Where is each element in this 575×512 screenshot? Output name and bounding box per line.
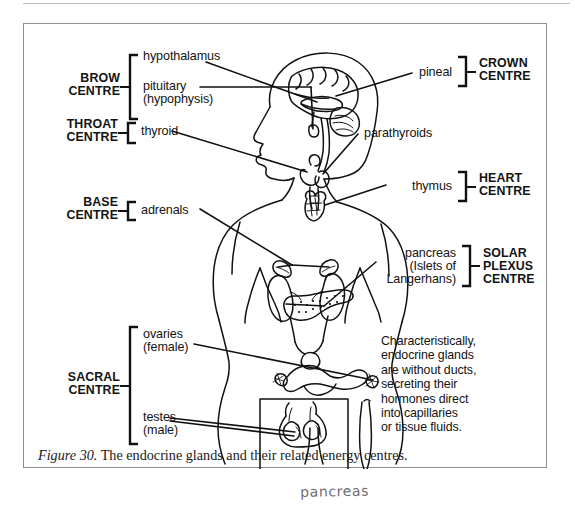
note-line1: Characteristically, (381, 334, 476, 348)
page-top-rule (23, 3, 570, 4)
figure-caption: Figure 30. The endocrine glands and thei… (38, 447, 518, 464)
crown-centre-label: CROWN CENTRE (479, 57, 531, 83)
pancreas-label: pancreas (Islets of Langerhans) (352, 247, 456, 286)
pituitary-line2: (hypophysis) (143, 92, 213, 106)
throat-centre-label: THROAT CENTRE (32, 118, 118, 144)
testes-line1: testes (143, 410, 176, 424)
parathyroids-label: parathyroids (364, 127, 432, 140)
note-line7: or tissue fluids. (381, 420, 462, 434)
note-line4: secreting their (381, 377, 457, 391)
solar-plexus-line1: SOLAR (483, 246, 527, 260)
pancreas-line1: pancreas (405, 246, 456, 260)
heart-centre-line1: HEART (479, 171, 522, 185)
ovaries-label: ovaries (female) (143, 328, 188, 354)
hypothalamus-label: hypothalamus (143, 50, 220, 63)
thyroid-label: thyroid (141, 125, 178, 138)
throat-centre-line1: THROAT (67, 117, 118, 131)
throat-centre-line2: CENTRE (66, 130, 118, 144)
base-centre-label: BASE CENTRE (32, 196, 118, 222)
figure-number: Figure 30. (38, 447, 97, 463)
sacral-centre-line2: CENTRE (68, 383, 120, 397)
note-line6: into capillaries (381, 406, 458, 420)
pineal-label: pineal (354, 66, 452, 79)
note-line5: hormones direct (381, 392, 468, 406)
solar-plexus-centre-label: SOLAR PLEXUS CENTRE (483, 247, 535, 286)
base-centre-line2: CENTRE (66, 208, 118, 222)
scanned-page: BROW CENTRE hypothalamus pituitary (hypo… (0, 0, 575, 512)
heart-centre-label: HEART CENTRE (479, 172, 531, 198)
solar-plexus-line2: PLEXUS (483, 259, 533, 273)
pituitary-label: pituitary (hypophysis) (143, 80, 213, 106)
endocrine-note-text: Characteristically, endocrine glands are… (381, 334, 476, 435)
ovaries-line2: (female) (143, 340, 188, 354)
crown-centre-line2: CENTRE (479, 69, 531, 83)
brow-centre-line2: CENTRE (68, 84, 120, 98)
pancreas-line3: Langerhans) (386, 272, 456, 286)
ovaries-line1: ovaries (143, 327, 183, 341)
sacral-centre-line1: SACRAL (68, 370, 120, 384)
pituitary-line1: pituitary (143, 79, 186, 93)
figure-frame: BROW CENTRE hypothalamus pituitary (hypo… (23, 23, 547, 468)
crown-centre-line1: CROWN (479, 56, 528, 70)
brow-centre-label: BROW CENTRE (34, 72, 120, 98)
heart-centre-line2: CENTRE (479, 184, 531, 198)
adrenals-label: adrenals (141, 204, 189, 217)
brow-centre-line1: BROW (80, 71, 120, 85)
figure-caption-text: The endocrine glands and their related e… (97, 447, 407, 463)
thymus-label: thymus (354, 180, 452, 193)
handwritten-margin-note: pancreas (300, 483, 369, 500)
testes-line2: (male) (143, 423, 178, 437)
testes-label: testes (male) (143, 411, 178, 437)
sacral-centre-label: SACRAL CENTRE (34, 371, 120, 397)
solar-plexus-line3: CENTRE (483, 272, 535, 286)
note-line2: endocrine glands (381, 348, 474, 362)
base-centre-line1: BASE (83, 195, 118, 209)
note-line3: are without ducts, (381, 363, 476, 377)
pancreas-line2: (Islets of (409, 259, 456, 273)
